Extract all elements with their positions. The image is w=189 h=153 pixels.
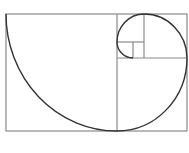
outer-rectangle: [6, 14, 187, 131]
subdivision-lines: [117, 14, 187, 131]
golden-spiral-curve: [6, 14, 187, 131]
golden-spiral-diagram: [0, 0, 189, 153]
